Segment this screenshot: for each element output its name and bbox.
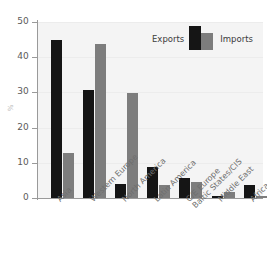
bar-exports: [51, 40, 62, 198]
bar-imports: [95, 44, 106, 198]
legend-swatch-imports: [201, 33, 213, 50]
y-tick-mark: [32, 22, 37, 23]
y-tick-mark: [32, 163, 37, 164]
y-tick-label: 40: [0, 52, 29, 61]
legend: Exports Imports: [152, 26, 253, 52]
y-tick-label: 20: [0, 123, 29, 132]
y-tick-label: 10: [0, 158, 29, 167]
y-tick-mark: [32, 57, 37, 58]
x-axis-labels: AsiaWestern EuropeNorth AmericaLatin Ame…: [0, 198, 267, 273]
y-axis-title: %: [7, 105, 15, 112]
y-tick-label: 30: [0, 87, 29, 96]
y-tick-label: 50: [0, 17, 29, 26]
legend-label-imports: Imports: [220, 34, 253, 44]
y-tick-mark: [32, 92, 37, 93]
bar-chart: 01020304050 % AsiaWestern EuropeNorth Am…: [0, 0, 267, 273]
legend-swatches: [189, 26, 215, 52]
bar-exports: [83, 90, 94, 198]
legend-label-exports: Exports: [152, 34, 184, 44]
legend-swatch-exports: [189, 26, 201, 50]
y-tick-mark: [32, 128, 37, 129]
